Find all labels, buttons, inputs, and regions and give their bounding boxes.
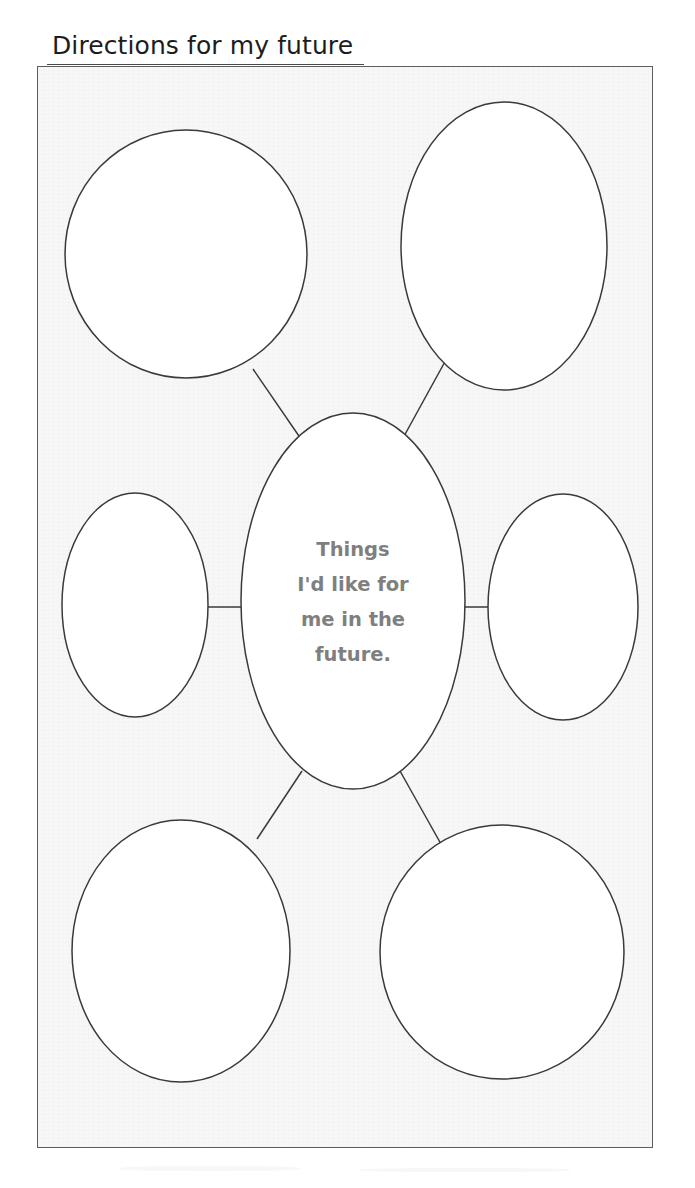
center-bubble-group: ThingsI'd like forme in thefuture. (241, 413, 465, 789)
bubble-bottom-right[interactable] (380, 825, 624, 1079)
connector-bottom-left (257, 771, 302, 839)
center-bubble-text-line: Things (316, 538, 389, 561)
connector-bottom-right (400, 771, 441, 844)
center-bubble-text-line: I'd like for (297, 573, 409, 596)
bubble-middle-left[interactable] (62, 493, 208, 717)
bubble-map-diagram: ThingsI'd like forme in thefuture. (0, 0, 695, 1188)
center-bubble-text-line: future. (315, 643, 391, 666)
bubble-top-right[interactable] (401, 102, 607, 390)
connector-top-right (403, 358, 447, 438)
center-bubble[interactable] (241, 413, 465, 789)
bubble-middle-right[interactable] (488, 494, 638, 720)
connector-top-left (253, 369, 301, 439)
bubble-top-left[interactable] (65, 130, 307, 378)
bubble-bottom-left[interactable] (72, 820, 290, 1082)
worksheet-page: Directions for my future ThingsI'd like … (0, 0, 695, 1188)
center-bubble-text-line: me in the (301, 608, 405, 631)
